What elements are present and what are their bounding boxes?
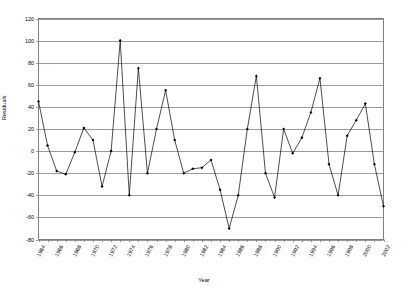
data-point-marker	[101, 185, 104, 188]
data-point-marker	[246, 128, 249, 131]
y-axis-tick-label: 60	[8, 82, 34, 88]
residuals-line	[39, 41, 384, 229]
data-point-marker	[355, 119, 358, 122]
y-axis-tick-label: 20	[8, 126, 34, 132]
data-point-marker	[337, 194, 340, 197]
plot-frame	[39, 19, 384, 240]
data-point-marker	[191, 167, 194, 170]
data-point-marker	[155, 128, 158, 131]
data-point-marker	[264, 172, 267, 175]
data-point-marker	[373, 163, 376, 166]
gridlines-group	[36, 20, 384, 241]
data-point-marker	[110, 150, 113, 153]
y-axis-tick-label: -80	[8, 237, 34, 243]
data-point-marker	[37, 100, 40, 103]
y-axis-tick-label: 80	[8, 60, 34, 66]
y-axis-tick-label: 40	[8, 104, 34, 110]
data-point-marker	[309, 111, 312, 114]
data-point-marker	[273, 196, 276, 199]
data-point-marker	[182, 172, 185, 175]
data-point-marker	[382, 205, 385, 208]
data-point-marker	[300, 136, 303, 139]
data-point-marker	[46, 144, 49, 147]
data-point-marker	[164, 89, 167, 92]
data-point-marker	[318, 77, 321, 80]
data-point-marker	[237, 194, 240, 197]
data-point-marker	[364, 102, 367, 105]
y-axis-tick-label: 120	[8, 16, 34, 22]
data-point-marker	[255, 74, 258, 77]
y-axis-title: Residuals	[1, 106, 7, 120]
data-point-marker	[282, 128, 285, 131]
data-point-marker	[291, 152, 294, 155]
data-point-marker	[173, 139, 176, 142]
y-axis-tick-label: -40	[8, 192, 34, 198]
residuals-line-chart: 120100806040200-20-40-60-80 196419661968…	[0, 0, 408, 289]
y-axis-tick-label: -60	[8, 214, 34, 220]
y-axis-tick-label: -20	[8, 170, 34, 176]
data-point-marker	[55, 169, 58, 172]
x-axis-title: Year	[0, 277, 408, 283]
data-point-marker	[219, 188, 222, 191]
data-point-marker	[146, 172, 149, 175]
y-axis-tick-label: 0	[8, 148, 34, 154]
data-point-marker	[228, 227, 231, 230]
data-point-marker	[346, 134, 349, 137]
data-point-marker	[128, 194, 131, 197]
y-axis-tick-label: 100	[8, 38, 34, 44]
data-point-marker	[137, 67, 140, 70]
data-point-marker	[328, 163, 331, 166]
